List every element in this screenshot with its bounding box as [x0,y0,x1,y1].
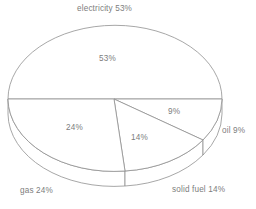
pie-chart-graphic [0,0,256,209]
slice-top-gas [8,99,125,171]
label-oil: oil 9% [222,127,245,135]
slice-value-gas: 24% [66,124,83,132]
slice-value-oil: 9% [168,108,180,116]
pie-chart-figure: electricity 53% oil 9% solid fuel 14% ga… [0,0,256,209]
slice-value-solid-fuel: 14% [131,134,148,142]
label-electricity: electricity 53% [77,5,132,13]
slice-value-electricity: 53% [99,55,116,63]
label-solid-fuel: solid fuel 14% [172,186,225,194]
label-gas: gas 24% [20,187,53,195]
